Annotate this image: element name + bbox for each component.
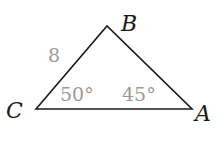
triangle-diagram: B C A 8 50° 45°	[0, 0, 224, 147]
vertex-label-c: C	[6, 98, 23, 123]
angle-label-a: 45°	[122, 83, 156, 105]
side-length-cb: 8	[48, 44, 60, 66]
angle-label-c: 50°	[60, 83, 94, 105]
vertex-label-a: A	[193, 101, 211, 126]
vertex-label-b: B	[120, 11, 137, 36]
